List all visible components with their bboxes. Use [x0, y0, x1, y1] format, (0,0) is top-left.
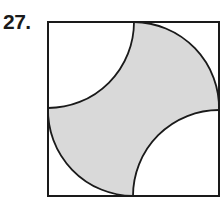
- geometry-figure: [0, 0, 222, 212]
